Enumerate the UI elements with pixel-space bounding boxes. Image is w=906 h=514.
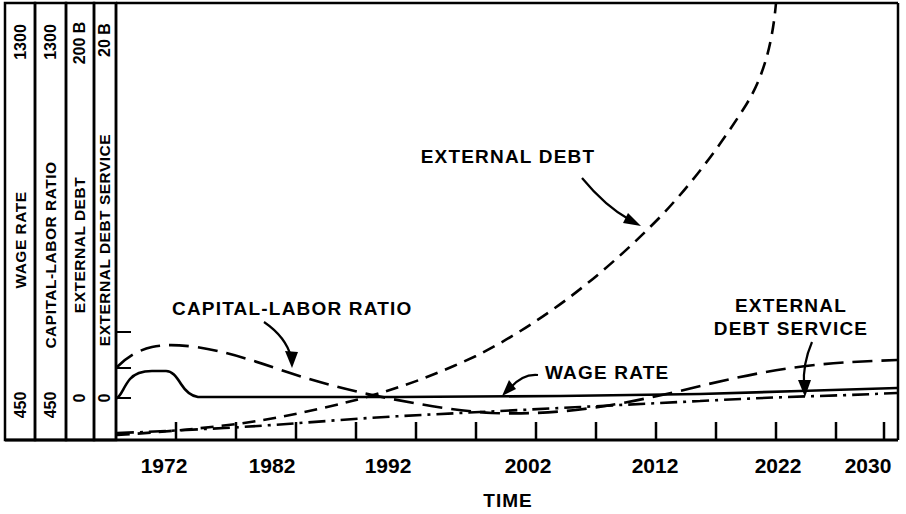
annotation-label-external-debt: EXTERNAL DEBT (421, 146, 596, 167)
x-tick-label: 2002 (505, 454, 552, 477)
y-axis-min-capital-labor-ratio: 450 (42, 392, 59, 419)
x-tick-label: 1992 (365, 454, 412, 477)
y-axis-name-external-debt-service: EXTERNAL DEBT SERVICE (96, 134, 113, 346)
x-tick-label: 2012 (632, 454, 679, 477)
figure-background (0, 0, 906, 514)
y-axis-min-wage-rate: 450 (12, 392, 29, 419)
y-axis-max-external-debt-service: 20 B (96, 23, 113, 57)
x-tick-label: 2022 (755, 454, 802, 477)
annotation-label-capital-labor-ratio: CAPITAL-LABOR RATIO (172, 298, 413, 319)
y-axis-min-external-debt-service: 0 (96, 393, 113, 402)
chart-svg: WAGE RATE CAPITAL-LABOR RATIO EXTERNAL D… (0, 0, 906, 514)
x-tick-label: 2030 (845, 454, 892, 477)
annotation-label-external-debt-service-line2: DEBT SERVICE (714, 318, 868, 339)
chart-figure: WAGE RATE CAPITAL-LABOR RATIO EXTERNAL D… (0, 0, 906, 514)
y-axis-name-external-debt: EXTERNAL DEBT (71, 177, 88, 313)
x-tick-label: 1972 (141, 454, 188, 477)
y-axis-name-wage-rate: WAGE RATE (12, 191, 29, 288)
x-tick-label: 1982 (249, 454, 296, 477)
y-axis-max-wage-rate: 1300 (12, 24, 29, 60)
annotation-label-wage-rate: WAGE RATE (545, 362, 669, 383)
y-axis-max-external-debt: 200 B (71, 22, 88, 65)
annotation-label-external-debt-service-line1: EXTERNAL (735, 295, 847, 316)
x-axis-tick-labels: 1972 1982 1992 2002 2012 2022 2030 (141, 454, 892, 477)
x-axis-title: TIME (483, 490, 532, 511)
y-axis-name-capital-labor-ratio: CAPITAL-LABOR RATIO (42, 161, 59, 348)
y-axis-max-capital-labor-ratio: 1300 (42, 24, 59, 60)
y-axis-min-external-debt: 0 (71, 393, 88, 402)
